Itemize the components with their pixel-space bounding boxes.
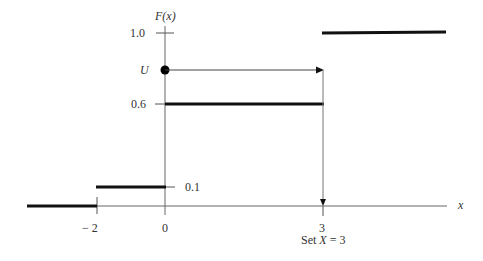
set-x-annotation: Set X = 3 [301,233,345,248]
arrowhead-down-icon [320,199,326,206]
y-tick-label-01: 0.1 [185,180,200,195]
y-axis-label: F(x) [155,9,176,24]
x-tick-label-0: 0 [162,221,168,236]
y-tick-label-1: 1.0 [130,26,145,41]
x-axis-label: x [458,198,463,213]
set-suffix: = 3 [327,233,346,247]
step-1 [322,32,446,33]
set-var: X [319,233,326,247]
x-tick-label-m2: − 2 [82,221,98,236]
cdf-plot [0,0,483,261]
u-label: U [140,63,149,78]
y-tick-label-06: 0.6 [131,97,146,112]
set-prefix: Set [301,233,319,247]
